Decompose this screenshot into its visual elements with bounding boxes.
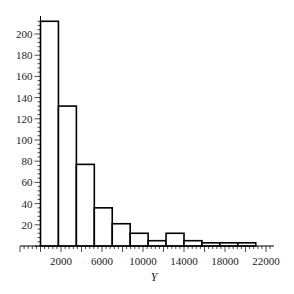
x-tick-label: 2000	[50, 255, 73, 267]
histogram-bar	[41, 21, 59, 246]
histogram-bar	[76, 164, 94, 246]
histogram-bar	[130, 233, 148, 246]
y-tick-label: 200	[16, 28, 33, 40]
y-tick-label: 60	[22, 176, 34, 188]
histogram-bar	[148, 241, 166, 246]
histogram-bar	[184, 241, 202, 246]
x-axis: 2000600010000140001800022000	[20, 246, 280, 267]
y-tick-label: 140	[16, 92, 33, 104]
histogram-bars	[41, 21, 256, 246]
y-tick-label: 80	[22, 155, 34, 167]
histogram-bar	[166, 233, 184, 246]
x-tick-label: 6000	[91, 255, 114, 267]
x-tick-label: 14000	[170, 255, 198, 267]
y-tick-label: 40	[22, 198, 34, 210]
x-tick-label: 10000	[129, 255, 157, 267]
x-tick-label: 22000	[252, 255, 280, 267]
histogram-bar	[58, 106, 76, 246]
histogram-bar	[112, 224, 130, 246]
y-tick-label: 180	[16, 49, 33, 61]
y-tick-label: 20	[22, 219, 34, 231]
x-tick-label: 18000	[211, 255, 239, 267]
y-tick-label: 100	[16, 134, 33, 146]
y-axis: 20406080100120140160180200	[16, 16, 41, 246]
y-tick-label: 160	[16, 70, 33, 82]
histogram-bar	[94, 208, 112, 246]
y-tick-label: 120	[16, 113, 33, 125]
x-axis-title: Y	[151, 270, 159, 284]
histogram-chart: 2000600010000140001800022000 20406080100…	[0, 0, 294, 294]
